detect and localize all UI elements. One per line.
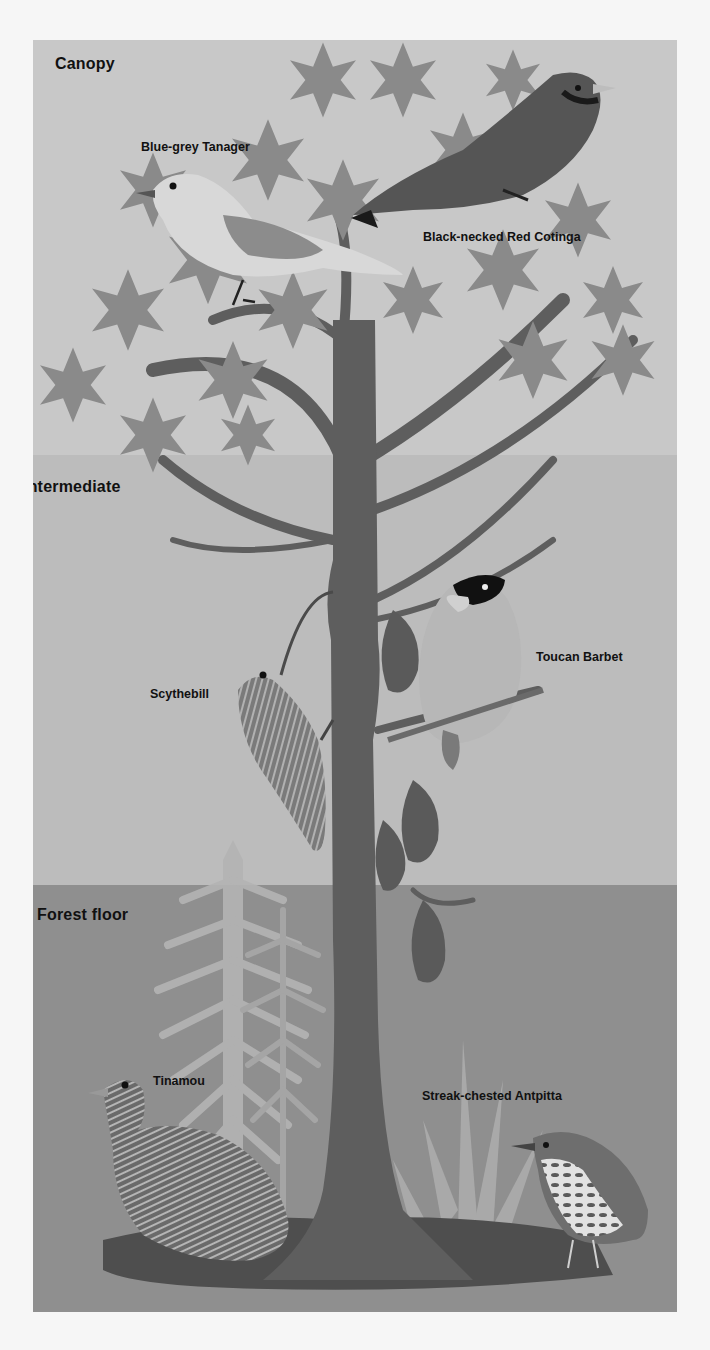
zone-label-forest-floor: Forest floor (37, 906, 128, 924)
species-label-scythebill: Scythebill (150, 687, 209, 701)
agave-plant-icon (393, 1040, 543, 1235)
zone-label-canopy: Canopy (55, 55, 115, 73)
species-label-tinamou: Tinamou (153, 1074, 205, 1088)
tinamou-bird (88, 1080, 289, 1261)
species-label-toucan-barbet: Toucan Barbet (536, 650, 623, 664)
scythebill-bird (238, 592, 333, 851)
species-label-streak-chested-antpitta: Streak-chested Antpitta (422, 1089, 562, 1103)
species-label-blue-grey-tanager: Blue-grey Tanager (141, 140, 250, 154)
species-label-black-necked-red-cotinga: Black-necked Red Cotinga (423, 230, 581, 244)
illustration-panel: Canopy Intermediate Forest floor Blue-gr… (33, 40, 677, 1312)
zone-label-intermediate: Intermediate (33, 478, 121, 496)
